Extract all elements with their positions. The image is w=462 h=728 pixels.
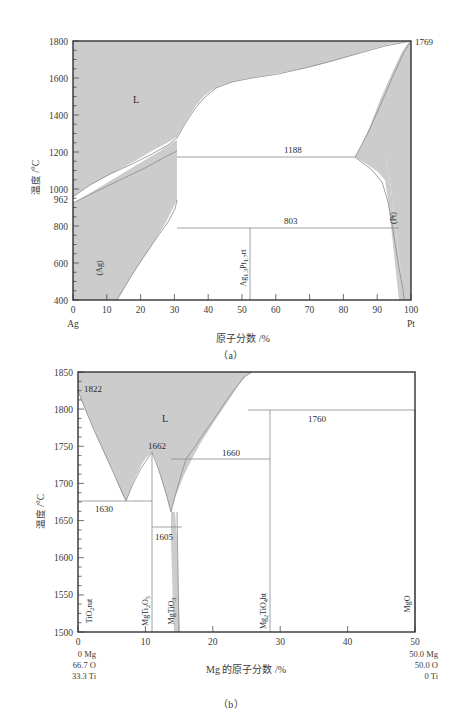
- x-axis-title-a: 原子分数 /%: [173, 330, 313, 345]
- annotation-1760: 1760: [308, 414, 327, 424]
- x-tick-a-60: 60: [271, 305, 281, 315]
- annotation-1660: 1660: [222, 448, 241, 458]
- x-axis-ticks-b: [78, 626, 415, 632]
- y-tick-a-1: 1600: [49, 74, 68, 84]
- y-tick-a-4: 1000: [49, 185, 68, 195]
- x-tick-a-30: 30: [170, 305, 180, 315]
- phase-label-mg2tio4-ht: Mg2TiO4ht: [259, 592, 269, 629]
- x-axis-ticks-a: [73, 294, 411, 300]
- x-tick-b-0: 0: [76, 637, 81, 647]
- x-tick-a-10: 10: [102, 305, 112, 315]
- y-axis-ticks-b: [78, 372, 84, 632]
- y-tick-b-4: 1650: [54, 516, 73, 526]
- figure-a-caption: （a）: [0, 347, 462, 362]
- y-axis-title-a: 温度 /°C: [28, 160, 42, 195]
- y-tick-b-2: 1750: [54, 442, 73, 452]
- y-axis-title-b: 温度 /°C: [33, 494, 47, 529]
- figure-b-caption: （b）: [0, 696, 462, 711]
- phase-label-ag: (Ag): [95, 260, 104, 275]
- endpoint-label-ag: Ag: [67, 319, 79, 329]
- annotation-803: 803: [284, 216, 298, 226]
- right-composition-mg: 50.0 Mg: [409, 649, 439, 659]
- x-tick-a-40: 40: [203, 305, 213, 315]
- y-tick-a-7: 400: [54, 296, 69, 306]
- y-tick-b-6: 1550: [54, 590, 73, 600]
- x-tick-a-50: 50: [237, 305, 247, 315]
- y-tick-a-6: 600: [54, 259, 69, 269]
- annotation-1822: 1822: [84, 384, 102, 394]
- annotation-1188: 1188: [284, 145, 302, 155]
- x-tick-a-80: 80: [339, 305, 349, 315]
- phase-label-pt: (Pt): [389, 212, 398, 224]
- x-tick-a-20: 20: [136, 305, 146, 315]
- left-composition-ti: 33.3 Ti: [72, 671, 97, 681]
- x-tick-b-30: 30: [275, 637, 285, 647]
- left-composition-mg: 0 Mg: [78, 649, 97, 659]
- x-tick-a-0: 0: [71, 305, 76, 315]
- y-tick-b-7: 1500: [54, 628, 73, 638]
- x-tick-b-50: 50: [410, 637, 420, 647]
- annotation-1630: 1630: [95, 504, 114, 514]
- svg-text:(Pt): (Pt): [389, 212, 398, 224]
- phase-label-liquid-a: L: [133, 94, 139, 105]
- y-tick-b-5: 1600: [54, 553, 73, 563]
- phase-label-mgtio3: MgTiO3: [167, 598, 177, 625]
- x-axis-title-b: Mg 的原子分数 /%: [176, 661, 316, 676]
- x-tick-b-10: 10: [141, 637, 151, 647]
- y-tick-a-2: 1400: [49, 111, 68, 121]
- x-tick-a-100: 100: [404, 305, 419, 315]
- figure-a-ag-pt-phase-diagram: 1800 1600 1400 1200 1000 962 800 600 400…: [0, 0, 462, 364]
- svg-text:Mg2TiO4ht: Mg2TiO4ht: [259, 592, 269, 629]
- svg-text:(Ag): (Ag): [95, 260, 104, 275]
- phase-label-mgti2o5: MgTi2O5: [141, 596, 151, 626]
- left-composition-o: 66.7 O: [73, 660, 96, 670]
- phase-label-mgo: MgO: [403, 595, 412, 612]
- y-tick-a-962: 962: [54, 195, 69, 205]
- right-composition-o: 50.0 O: [415, 660, 438, 670]
- svg-text:MgTiO3: MgTiO3: [167, 598, 177, 625]
- y-tick-b-0: 1850: [54, 368, 73, 378]
- annotation-1662: 1662: [148, 441, 166, 451]
- y-tick-a-0: 1800: [49, 37, 68, 47]
- svg-text:Ag1.3Pt1.7rt: Ag1.3Pt1.7rt: [239, 249, 249, 287]
- phase-label-liquid-b: L: [162, 413, 168, 424]
- svg-text:MgTi2O5: MgTi2O5: [141, 596, 151, 626]
- endpoint-label-pt: Pt: [407, 319, 415, 329]
- right-composition-ti: 0 Ti: [425, 671, 439, 681]
- x-tick-a-70: 70: [305, 305, 315, 315]
- y-tick-b-3: 1700: [54, 479, 73, 489]
- y-tick-b-1: 1800: [54, 405, 73, 415]
- x-tick-b-20: 20: [208, 637, 218, 647]
- y-tick-a-3: 1200: [49, 148, 68, 158]
- figure-b-mgo-tio2-phase-diagram: 1850 1800 1750 1700 1650 1600 1550 1500 …: [0, 364, 462, 728]
- y-tick-a-5: 800: [54, 222, 69, 232]
- svg-text:MgO: MgO: [403, 595, 412, 612]
- phase-label-ag-pt-compound: Ag1.3Pt1.7rt: [239, 249, 249, 287]
- figure-a-plot: 1800 1600 1400 1200 1000 962 800 600 400…: [0, 0, 462, 364]
- x-tick-b-40: 40: [343, 637, 353, 647]
- annotation-1769: 1769: [415, 37, 434, 47]
- x-tick-a-90: 90: [372, 305, 382, 315]
- svg-text:TiO2rut: TiO2rut: [85, 598, 95, 623]
- phase-label-tio2-rut: TiO2rut: [85, 598, 95, 623]
- annotation-1605: 1605: [155, 532, 174, 542]
